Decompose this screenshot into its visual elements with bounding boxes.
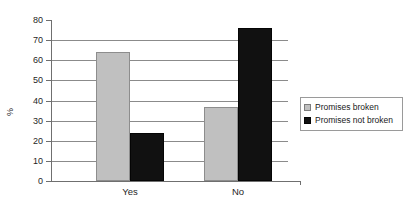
bar-yes-promises-not-broken: [130, 133, 164, 181]
x-axis-end-tick: [300, 181, 301, 185]
legend-swatch-icon: [304, 117, 311, 124]
bar-no-promises-broken: [204, 107, 238, 181]
chart-legend: Promises broken Promises not broken: [300, 97, 403, 131]
y-axis-tick-label: 10: [13, 157, 43, 166]
y-axis-tick-label: 80: [13, 16, 43, 25]
y-axis-tick: [46, 181, 51, 182]
x-axis-label-no: No: [198, 186, 278, 198]
legend-item-promises-not-broken: Promises not broken: [304, 114, 399, 126]
y-axis-tick-label: 20: [13, 137, 43, 146]
y-axis-tick-label: 40: [13, 97, 43, 106]
legend-label: Promises broken: [315, 102, 379, 112]
legend-item-promises-broken: Promises broken: [304, 101, 399, 113]
y-axis-tick-label: 70: [13, 36, 43, 45]
y-axis-tick: [46, 60, 51, 61]
y-axis-tick: [46, 20, 51, 21]
y-axis-tick-label: 60: [13, 56, 43, 65]
y-axis-tick: [46, 80, 51, 81]
plot-area: [52, 20, 288, 181]
y-axis-tick-label: 0: [13, 177, 43, 186]
y-axis-tick: [46, 40, 51, 41]
y-axis-tick: [46, 141, 51, 142]
y-axis-tick-label: 30: [13, 117, 43, 126]
legend-label: Promises not broken: [315, 115, 393, 125]
bar-no-promises-not-broken: [238, 28, 272, 181]
legend-swatch-icon: [304, 104, 311, 111]
y-axis-tick: [46, 161, 51, 162]
y-axis-tick-label: 50: [13, 76, 43, 85]
bar-yes-promises-broken: [96, 52, 130, 181]
y-axis-tick: [46, 101, 51, 102]
grid-line: [52, 181, 288, 182]
bar-chart: % 80706050403020100 YesNo Promises broke…: [0, 0, 411, 223]
y-axis-tick: [46, 121, 51, 122]
x-axis-label-yes: Yes: [90, 186, 170, 198]
